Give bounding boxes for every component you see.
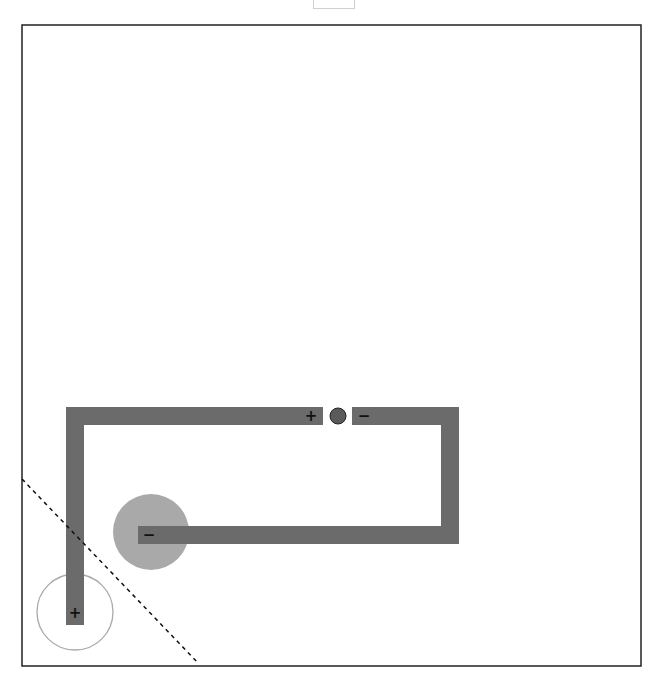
frame-border: [22, 25, 641, 666]
wire-left-vertical: [66, 407, 84, 625]
battery-negative-sign: −: [358, 407, 371, 425]
battery-positive-sign: +: [305, 407, 318, 425]
wire-bottom: [138, 526, 459, 544]
diagram-canvas: + − − +: [0, 0, 660, 691]
battery-icon: [330, 408, 346, 424]
lower-wire-negative-sign: −: [143, 526, 156, 544]
wire-right-vertical: [441, 407, 459, 544]
wire-top-left: [66, 407, 323, 425]
left-wire-positive-sign: +: [69, 604, 82, 622]
